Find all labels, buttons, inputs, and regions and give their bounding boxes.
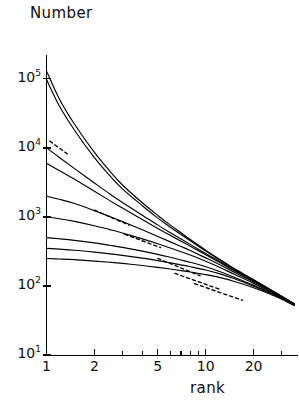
curve-asymptote-3	[125, 234, 161, 247]
axis-lines	[46, 55, 298, 356]
curve-curve-3	[47, 148, 295, 304]
plot-area	[0, 0, 299, 409]
curve-curve-4	[47, 163, 295, 304]
x-tick-label: 5	[153, 358, 162, 374]
x-tick-label: 1	[42, 358, 51, 374]
x-axis-title: rank	[190, 379, 225, 397]
chart-figure: Number rank 101102103104105 1251020	[0, 0, 299, 409]
curve-curve-2	[47, 79, 295, 303]
y-tick-label: 103	[8, 207, 41, 223]
curve-asymptote-2	[94, 210, 129, 225]
y-tick-label: 105	[8, 69, 41, 85]
x-tick-label: 20	[245, 358, 263, 374]
y-tick-label: 104	[8, 138, 41, 154]
curve-asymptote-6	[194, 284, 242, 301]
data-curves	[47, 71, 295, 306]
y-tick-label: 101	[8, 345, 41, 361]
x-tick-label: 10	[197, 358, 215, 374]
x-tick-marks	[47, 349, 282, 355]
x-tick-label: 2	[90, 358, 99, 374]
y-tick-label: 102	[8, 276, 41, 292]
y-axis-title: Number	[30, 4, 93, 22]
